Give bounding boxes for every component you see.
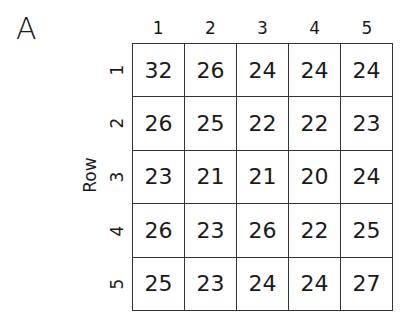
row-label: 1 (106, 43, 128, 97)
table-row: 25 23 24 24 27 (133, 257, 393, 310)
table-row: 26 23 26 22 25 (133, 204, 393, 257)
row-label: 3 (106, 150, 128, 204)
grid-cell: 32 (133, 44, 185, 97)
grid-cell: 24 (289, 44, 341, 97)
row-axis-title: Row (80, 155, 100, 195)
column-label: 5 (341, 18, 393, 40)
row-label: 2 (106, 97, 128, 151)
panel-label: A (16, 14, 37, 44)
grid-cell: 22 (289, 204, 341, 257)
grid-cell: 24 (341, 44, 393, 97)
grid-cell: 21 (185, 150, 237, 203)
column-label: 2 (184, 18, 236, 40)
column-label: 4 (289, 18, 341, 40)
grid-cell: 26 (133, 97, 185, 150)
grid-cell: 25 (341, 204, 393, 257)
table-row: 32 26 24 24 24 (133, 44, 393, 97)
table-row: 23 21 21 20 24 (133, 150, 393, 203)
row-label: 5 (106, 257, 128, 311)
value-grid: 32 26 24 24 24 26 25 22 22 23 23 21 21 2… (132, 43, 393, 311)
grid-cell: 22 (237, 97, 289, 150)
column-label: 1 (132, 18, 184, 40)
column-label: 3 (236, 18, 288, 40)
column-labels: 1 2 3 4 5 (132, 18, 393, 40)
row-label: 4 (106, 204, 128, 258)
table-row: 26 25 22 22 23 (133, 97, 393, 150)
grid-cell: 24 (341, 150, 393, 203)
grid-cell: 25 (185, 97, 237, 150)
grid-cell: 24 (237, 257, 289, 310)
grid-cell: 22 (289, 97, 341, 150)
grid-cell: 24 (289, 257, 341, 310)
grid-cell: 23 (341, 97, 393, 150)
row-labels: 1 2 3 4 5 (106, 43, 128, 311)
grid-cell: 24 (237, 44, 289, 97)
grid-cell: 23 (185, 257, 237, 310)
grid-cell: 25 (133, 257, 185, 310)
grid-cell: 23 (133, 150, 185, 203)
grid-cell: 20 (289, 150, 341, 203)
grid-cell: 27 (341, 257, 393, 310)
grid-cell: 23 (185, 204, 237, 257)
grid-cell: 21 (237, 150, 289, 203)
grid-cell: 26 (185, 44, 237, 97)
grid-cell: 26 (133, 204, 185, 257)
grid-cell: 26 (237, 204, 289, 257)
